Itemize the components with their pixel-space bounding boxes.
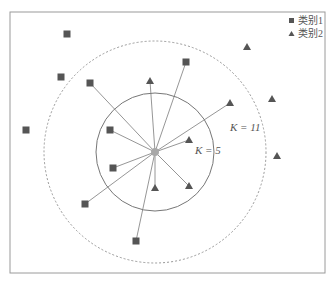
class1-square-marker [87, 80, 94, 87]
k5-label: K = 5 [194, 144, 221, 156]
legend: 类别1 类别2 [289, 14, 324, 39]
neighbor-link [155, 62, 186, 152]
legend-label-class2: 类别2 [298, 27, 323, 39]
class1-square-marker [23, 127, 30, 134]
class1-square-marker [82, 201, 89, 208]
class1-square-marker [110, 165, 117, 172]
neighbor-link [85, 152, 155, 204]
class1-square-marker [58, 74, 65, 81]
class1-square-marker [183, 59, 190, 66]
class2-triangle-marker [273, 152, 281, 159]
class1-points [23, 31, 190, 245]
class2-triangle-marker [146, 77, 154, 84]
class1-square-marker [107, 127, 114, 134]
neighbor-link [110, 130, 155, 152]
class2-triangle-marker [226, 99, 234, 106]
legend-square-icon [289, 18, 294, 23]
neighbor-link [150, 81, 155, 152]
class2-triangle-marker [151, 184, 159, 191]
class1-square-marker [133, 238, 140, 245]
neighbor-link [136, 152, 155, 241]
legend-label-class1: 类别1 [298, 14, 323, 26]
class2-triangle-marker [268, 95, 276, 102]
neighbor-link [113, 152, 155, 168]
neighbor-link [155, 152, 189, 186]
frame-border [10, 12, 325, 273]
neighbor-link [155, 140, 189, 152]
class2-triangle-marker [243, 43, 251, 50]
class2-triangle-marker [185, 136, 193, 143]
query-point [151, 148, 159, 156]
legend-triangle-icon [289, 31, 295, 36]
k11-label: K = 11 [229, 121, 260, 133]
class1-square-marker [64, 31, 71, 38]
knn-diagram: K = 5 K = 11 类别1 类别2 [0, 0, 331, 281]
